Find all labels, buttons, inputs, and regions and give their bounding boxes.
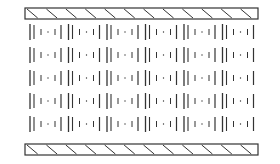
hatch-line [241, 9, 252, 18]
plate-bar-diagram [0, 0, 280, 164]
hatch-line [182, 145, 193, 154]
hatch-line [221, 145, 232, 154]
bar-row [30, 24, 254, 40]
hatch-line [85, 9, 96, 18]
hatch-line [202, 9, 213, 18]
bar-row [30, 116, 254, 132]
top-hatched-plate [25, 8, 258, 19]
hatch-line [124, 9, 135, 18]
hatch-line [144, 145, 155, 154]
bar-row [30, 93, 254, 109]
bar-row [30, 47, 254, 63]
hatch-line [27, 9, 38, 18]
hatch-line [46, 145, 57, 154]
hatch-line [105, 9, 116, 18]
plate-outline [25, 8, 258, 19]
hatch-line [66, 9, 77, 18]
hatch-line [221, 9, 232, 18]
hatch-line [241, 145, 252, 154]
hatch-line [46, 9, 57, 18]
hatch-line [27, 145, 38, 154]
hatch-line [163, 9, 174, 18]
hatch-line [144, 9, 155, 18]
hatch-line [182, 9, 193, 18]
plate-outline [25, 144, 258, 155]
hatch-line [202, 145, 213, 154]
bar-rows [30, 24, 254, 132]
bar-row [30, 70, 254, 86]
hatch-line [163, 145, 174, 154]
hatch-line [105, 145, 116, 154]
hatch-line [124, 145, 135, 154]
hatch-line [85, 145, 96, 154]
bottom-hatched-plate [25, 144, 258, 155]
hatch-line [66, 145, 77, 154]
